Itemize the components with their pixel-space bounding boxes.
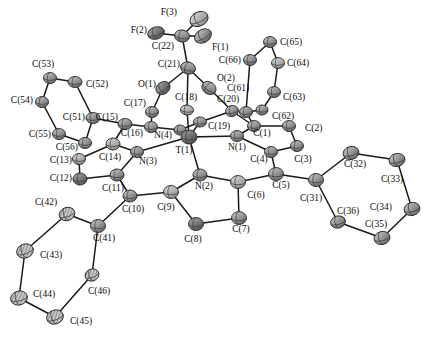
atom-C54 (36, 97, 49, 108)
ortep-diagram: F(3)F(2)F(1)C(22)C(21)O(1)O(2)C(17)C(18)… (0, 0, 439, 338)
atom-C9 (164, 186, 179, 199)
atom-label-C46: C(46) (88, 286, 110, 297)
atom-label-C62: C(62) (272, 111, 294, 122)
atom-label-C7: C(7) (232, 224, 249, 235)
thermal-ellipsoid (309, 174, 324, 187)
thermal-ellipsoid (36, 97, 49, 108)
thermal-ellipsoid (181, 130, 197, 144)
atom-label-C43: C(43) (40, 250, 62, 261)
thermal-ellipsoid (269, 168, 284, 181)
atom-label-C42: C(42) (35, 197, 57, 208)
atom-label-C55: C(55) (29, 129, 51, 140)
thermal-ellipsoid (146, 107, 159, 118)
atom-label-C13: C(13) (50, 155, 72, 166)
atom-C11 (110, 169, 124, 181)
atom-C31 (309, 174, 324, 187)
atom-C3 (291, 141, 304, 152)
thermal-ellipsoid (53, 129, 66, 140)
thermal-ellipsoid (264, 37, 277, 48)
atom-C12 (73, 173, 87, 185)
atom-label-C33: C(33) (381, 174, 403, 185)
atom-label-C32: C(32) (344, 159, 366, 170)
thermal-ellipsoid (106, 138, 120, 150)
atom-label-C45: C(45) (70, 316, 92, 327)
atom-C41 (91, 220, 106, 233)
atom-label-C51: C(51) (63, 112, 85, 123)
atom-C65 (264, 37, 277, 48)
atom-label-C19: C(19) (208, 121, 230, 132)
thermal-ellipsoid (232, 212, 247, 225)
atom-label-C41: C(41) (93, 233, 115, 244)
atom-label-C63: C(63) (283, 92, 305, 103)
atom-C14 (106, 138, 120, 150)
thermal-ellipsoid (44, 73, 57, 84)
atom-C53 (44, 73, 57, 84)
atom-label-C34: C(34) (370, 202, 392, 213)
atom-label-C21: C(21) (158, 59, 180, 70)
atom-C19 (194, 117, 207, 127)
atom-C64 (272, 58, 285, 69)
atom-C2 (283, 121, 296, 132)
atom-C56 (79, 138, 92, 149)
atom-label-C15: C(15) (96, 112, 118, 123)
thermal-ellipsoid (231, 176, 246, 189)
atom-label-C12: C(12) (50, 173, 72, 184)
atom-label-C9: C(9) (157, 202, 174, 213)
atom-label-C65: C(65) (280, 37, 302, 48)
atom-label-C6: C(6) (247, 190, 264, 201)
atom-C10 (123, 190, 137, 202)
atom-label-C5: C(5) (272, 180, 289, 191)
atom-C13 (73, 154, 86, 165)
atom-label-C22: C(22) (152, 41, 174, 52)
atom-label-C18: C(18) (175, 92, 197, 103)
atom-label-N4: N(4) (154, 130, 172, 141)
atom-C5 (269, 168, 284, 181)
atom-T1 (181, 130, 197, 144)
atom-label-C36: C(36) (337, 206, 359, 217)
thermal-ellipsoid (256, 105, 268, 115)
atom-label-N3: N(3) (139, 156, 157, 167)
thermal-ellipsoid (123, 190, 137, 202)
thermal-ellipsoid (291, 141, 304, 152)
thermal-ellipsoid (268, 87, 281, 98)
atom-C66 (244, 55, 257, 66)
atom-C6 (231, 176, 246, 189)
atom-label-C17: C(17) (124, 98, 146, 109)
thermal-ellipsoid (272, 58, 285, 69)
atom-label-C35: C(35) (365, 219, 387, 230)
thermal-ellipsoid (193, 169, 207, 181)
thermal-ellipsoid (189, 218, 204, 231)
atom-label-F3: F(3) (161, 7, 177, 18)
atom-C8 (189, 218, 204, 231)
thermal-ellipsoid (164, 186, 179, 199)
atom-N1 (231, 131, 244, 142)
thermal-ellipsoid (79, 138, 92, 149)
atom-label-C20: C(20) (217, 94, 239, 105)
atom-label-C54: C(54) (11, 95, 33, 106)
atom-label-C14: C(14) (99, 152, 121, 163)
thermal-ellipsoid (73, 173, 87, 185)
atom-C62 (256, 105, 268, 115)
atom-label-C66: C(66) (219, 55, 241, 66)
ortep-structure-figure: F(3)F(2)F(1)C(22)C(21)O(1)O(2)C(17)C(18)… (0, 0, 439, 338)
atom-label-C31: C(31) (300, 193, 322, 204)
atom-label-C8: C(8) (184, 234, 201, 245)
atom-label-N1: N(1) (228, 142, 246, 153)
atom-label-C16: C(16) (121, 128, 143, 139)
thermal-ellipsoid (73, 154, 86, 165)
atom-N2 (193, 169, 207, 181)
atom-C55 (53, 129, 66, 140)
thermal-ellipsoid (283, 121, 296, 132)
atom-label-F2: F(2) (131, 25, 147, 36)
atom-label-C44: C(44) (33, 289, 55, 300)
thermal-ellipsoid (240, 107, 253, 118)
thermal-ellipsoid (231, 131, 244, 142)
atom-label-C1: C(1) (253, 128, 270, 139)
atom-label-C10: C(10) (122, 204, 144, 215)
atom-label-C3: C(3) (294, 154, 311, 165)
atom-label-C64: C(64) (287, 58, 309, 69)
atom-label-C56: C(56) (56, 142, 78, 153)
atom-label-N2: N(2) (195, 181, 213, 192)
atom-C61 (240, 107, 253, 118)
atom-label-T1: T(1) (176, 145, 193, 156)
